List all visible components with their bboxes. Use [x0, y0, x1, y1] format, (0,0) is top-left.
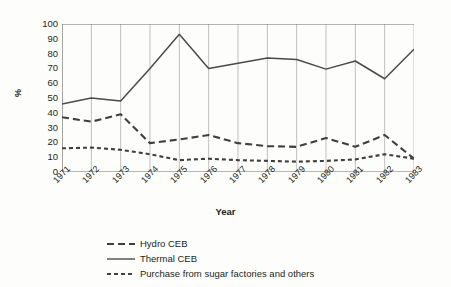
- y-axis-title: %: [13, 89, 23, 97]
- x-axis-title: Year: [0, 206, 451, 217]
- plot-area: [62, 24, 414, 172]
- legend-item-2: Purchase from sugar factories and others: [106, 266, 406, 281]
- y-tick-label: 70: [28, 63, 58, 73]
- legend-swatch-line-icon: [106, 269, 136, 279]
- legend-item-0: Hydro CEB: [106, 236, 406, 251]
- legend-label: Hydro CEB: [140, 238, 188, 249]
- y-tick-label: 100: [28, 19, 58, 29]
- legend-swatch-line-icon: [106, 254, 136, 264]
- y-tick-label: 90: [28, 34, 58, 44]
- y-tick-label: 40: [28, 108, 58, 118]
- chart-legend: Hydro CEBThermal CEBPurchase from sugar …: [106, 236, 406, 281]
- y-axis-tick-labels: 1009080706050403020100: [28, 18, 58, 178]
- line-chart: % 1009080706050403020100 197119721973197…: [0, 0, 451, 287]
- y-tick-label: 60: [28, 78, 58, 88]
- x-axis-tick-labels: 1971197219731974197519761977197819791980…: [62, 174, 422, 208]
- legend-swatch-line-icon: [106, 239, 136, 249]
- y-tick-label: 20: [28, 137, 58, 147]
- legend-item-1: Thermal CEB: [106, 251, 406, 266]
- y-tick-label: 10: [28, 152, 58, 162]
- legend-label: Purchase from sugar factories and others: [140, 268, 314, 279]
- legend-label: Thermal CEB: [140, 253, 197, 264]
- y-tick-label: 50: [28, 93, 58, 103]
- y-tick-label: 80: [28, 49, 58, 59]
- y-tick-label: 30: [28, 123, 58, 133]
